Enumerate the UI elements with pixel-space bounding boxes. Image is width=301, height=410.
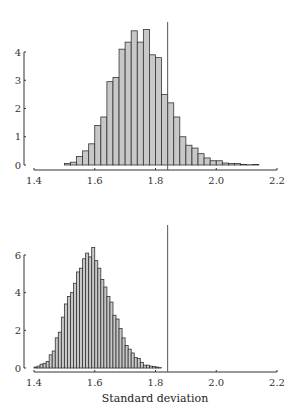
- histogram-bar: [107, 82, 113, 165]
- histogram-bar: [222, 163, 228, 165]
- histogram-bar: [113, 77, 119, 165]
- top-histogram: 012341.41.61.82.02.2: [15, 22, 285, 186]
- histogram-bar: [137, 359, 140, 368]
- histogram-bar: [37, 366, 40, 368]
- histogram-bar: [70, 162, 76, 165]
- histogram-bar: [140, 362, 143, 368]
- histogram-bar: [64, 304, 67, 368]
- x-tick-label: 1.4: [26, 175, 42, 186]
- x-axis-title: Standard deviation: [102, 392, 208, 405]
- x-tick-label: 1.4: [26, 377, 42, 388]
- histogram-bar: [101, 279, 104, 368]
- histogram-bar: [234, 164, 240, 165]
- histogram-bar: [216, 161, 222, 165]
- histogram-bar: [128, 349, 131, 368]
- histogram-bar: [146, 365, 149, 368]
- histogram-bar: [95, 261, 98, 368]
- histogram-bar: [149, 366, 152, 368]
- histogram-bar: [70, 293, 73, 368]
- histogram-bar: [253, 164, 259, 165]
- histogram-bar: [162, 94, 168, 165]
- histogram-bar: [192, 148, 198, 165]
- histogram-bar: [61, 317, 64, 368]
- histogram-bar: [40, 364, 43, 368]
- histogram-bar: [73, 283, 76, 368]
- bottom-histogram: 02461.41.61.82.02.2Standard deviation: [15, 225, 285, 405]
- histogram-bar: [125, 345, 128, 368]
- histogram-bar: [143, 365, 146, 368]
- histogram-bar: [174, 117, 180, 165]
- histogram-bar: [83, 259, 86, 368]
- histogram-bar: [137, 42, 143, 165]
- histogram-bar: [241, 164, 247, 165]
- histogram-bar: [168, 103, 174, 165]
- x-tick-label: 2.0: [208, 175, 224, 186]
- histogram-bar: [110, 302, 113, 368]
- histogram-bar: [119, 328, 122, 368]
- y-tick-label: 0: [15, 160, 21, 171]
- histogram-bar: [210, 161, 216, 165]
- histogram-bar: [125, 42, 131, 165]
- histogram-bar: [101, 117, 107, 165]
- histogram-bar: [77, 272, 80, 368]
- histogram-bar: [92, 247, 95, 368]
- x-tick-label: 1.8: [148, 377, 164, 388]
- histogram-bar: [107, 296, 110, 368]
- histogram-bar: [46, 361, 49, 368]
- x-tick-label: 2.2: [269, 377, 285, 388]
- x-tick-label: 2.2: [269, 175, 285, 186]
- x-tick-label: 2.0: [208, 377, 224, 388]
- x-tick-label: 1.8: [148, 175, 164, 186]
- histogram-bar: [131, 31, 137, 165]
- histogram-bar: [180, 137, 186, 165]
- y-tick-label: 4: [15, 287, 21, 298]
- histogram-bar: [77, 157, 83, 165]
- x-tick-label: 1.6: [87, 175, 103, 186]
- x-tick-label: 1.6: [87, 377, 103, 388]
- histogram-bar: [119, 49, 125, 165]
- histogram-bar: [134, 358, 137, 368]
- histogram-bar: [198, 154, 204, 165]
- y-tick-label: 1: [15, 131, 21, 142]
- histogram-bar: [67, 296, 70, 368]
- histogram-bar: [204, 158, 210, 165]
- histogram-bar: [113, 315, 116, 368]
- y-tick-label: 0: [15, 363, 21, 374]
- y-tick-label: 2: [15, 103, 21, 114]
- histogram-bar: [228, 164, 234, 165]
- histogram-bar: [89, 257, 92, 368]
- histogram-bar: [34, 367, 37, 368]
- histogram-bar: [156, 367, 159, 368]
- y-tick-label: 3: [15, 75, 21, 86]
- histogram-bar: [83, 151, 89, 165]
- histogram-bar: [116, 319, 119, 368]
- histogram-figure: 012341.41.61.82.02.2 02461.41.61.82.02.2…: [0, 0, 301, 410]
- histogram-bar: [86, 253, 89, 368]
- y-tick-label: 4: [15, 47, 21, 58]
- histogram-bar: [131, 353, 134, 368]
- histogram-bar: [156, 58, 162, 165]
- histogram-bar: [122, 338, 125, 368]
- histogram-bar: [52, 351, 55, 368]
- y-tick-label: 6: [15, 250, 21, 261]
- histogram-bar: [49, 355, 52, 368]
- histogram-bar: [149, 55, 155, 165]
- histogram-bar: [104, 287, 107, 368]
- histogram-bar: [55, 338, 58, 368]
- histogram-bar: [58, 332, 61, 368]
- histogram-bar: [98, 268, 101, 368]
- histogram-bar: [80, 268, 83, 368]
- histogram-bar: [43, 363, 46, 368]
- y-tick-label: 2: [15, 325, 21, 336]
- histogram-bar: [186, 145, 192, 165]
- histogram-bar: [152, 366, 155, 368]
- histogram-bar: [95, 125, 101, 165]
- histogram-bar: [64, 164, 70, 165]
- histogram-bar: [143, 29, 149, 165]
- histogram-bar: [89, 144, 95, 165]
